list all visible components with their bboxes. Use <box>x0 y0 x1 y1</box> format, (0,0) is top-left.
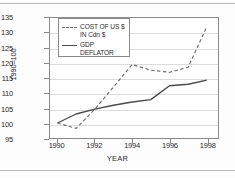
chart-figure: 1990=100 YEAR 95100105110115120125130135… <box>0 0 235 178</box>
y-tick-label: 95 <box>0 139 13 148</box>
y-tick-label: 115 <box>0 78 13 87</box>
x-tick-mark <box>57 139 58 144</box>
legend-item-gdp-deflator: GDP DEFLATOR <box>62 41 126 58</box>
legend-item-cost-of-us-dollar: COST OF US $ IN Cdn $ <box>62 23 126 40</box>
x-axis-label: YEAR <box>0 154 235 163</box>
x-tick-mark <box>170 139 171 144</box>
x-tick-mark <box>208 139 209 144</box>
y-tick-label: 105 <box>0 109 13 118</box>
bottom-divider <box>0 170 235 171</box>
y-tick-label: 110 <box>0 93 13 102</box>
x-tick-mark <box>132 139 133 144</box>
chart-legend: COST OF US $ IN Cdn $ GDP DEFLATOR <box>58 18 130 57</box>
y-tick-label: 135 <box>0 17 13 26</box>
legend-label-line2: IN Cdn $ <box>80 31 105 38</box>
legend-label-line1: COST OF US $ <box>80 23 124 30</box>
y-tick-mark <box>44 139 49 140</box>
legend-label-gdp-deflator: GDP DEFLATOR <box>80 41 126 58</box>
y-tick-label: 120 <box>0 63 13 72</box>
y-tick-label: 130 <box>0 32 13 41</box>
dashed-line-swatch-icon <box>62 23 77 32</box>
y-tick-label: 125 <box>0 48 13 57</box>
top-divider <box>0 3 235 4</box>
x-tick-mark <box>94 139 95 144</box>
y-tick-label: 100 <box>0 124 13 133</box>
solid-line-swatch-icon <box>62 41 77 50</box>
series-line <box>57 80 206 123</box>
plot-area: COST OF US $ IN Cdn $ GDP DEFLATOR <box>49 17 219 139</box>
legend-label-group: COST OF US $ IN Cdn $ <box>80 23 124 40</box>
